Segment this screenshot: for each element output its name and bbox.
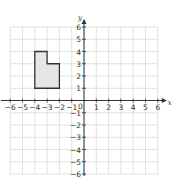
y-tick-label: 4	[76, 48, 81, 57]
y-tick-label: 5	[76, 35, 81, 44]
coordinate-plane: x y 0 −6−5−4−3−2−1123456654321−1−2−3−4−5…	[0, 0, 174, 188]
x-tick-label: −2	[54, 103, 65, 112]
y-tick-label: −1	[70, 109, 81, 118]
x-tick-label: 1	[94, 103, 99, 112]
x-tick-label: 5	[143, 103, 148, 112]
y-axis-arrow-icon	[82, 19, 87, 24]
shape-layer	[35, 52, 60, 89]
y-tick-label: −3	[70, 133, 81, 142]
l-shaped-polygon	[35, 52, 60, 89]
x-tick-label: 6	[155, 103, 160, 112]
y-tick-label: 6	[76, 23, 81, 32]
y-tick-label: −6	[70, 170, 81, 179]
x-tick-label: 3	[119, 103, 124, 112]
y-tick-label: −2	[70, 121, 81, 130]
y-tick-label: 1	[76, 84, 81, 93]
y-axis-label: y	[77, 14, 83, 22]
axes: x y 0	[1, 14, 172, 176]
y-tick-label: −5	[70, 158, 81, 167]
x-axis-arrow-icon	[162, 98, 167, 103]
x-axis-label: x	[168, 99, 172, 107]
x-tick-label: 4	[131, 103, 136, 112]
x-tick-label: −6	[5, 103, 16, 112]
y-tick-label: 2	[76, 72, 81, 81]
y-tick-label: 3	[76, 60, 81, 69]
y-tick-label: −4	[70, 146, 81, 155]
x-tick-label: 2	[106, 103, 111, 112]
x-tick-label: −5	[17, 103, 28, 112]
x-tick-label: −3	[42, 103, 53, 112]
x-tick-label: −4	[29, 103, 40, 112]
